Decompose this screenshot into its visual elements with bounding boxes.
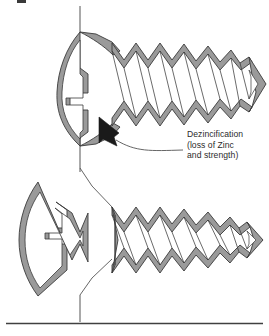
fractured-screw-top-thread-zinc-band — [112, 207, 250, 235]
callout-line-3: and strength) — [187, 150, 269, 161]
callout-text-block: Dezincification (loss of Zinc and streng… — [187, 129, 269, 161]
callout-line-1: Dezincification — [187, 129, 269, 140]
callout-leader-line — [116, 140, 183, 151]
callout-arrowhead-icon — [99, 117, 119, 146]
callout-line-2: (loss of Zinc — [187, 140, 269, 151]
intact-screw-top-thread-zinc-band — [112, 43, 252, 70]
dezincification-diagram-svg — [0, 0, 269, 336]
intact-screw-bottom-thread-zinc-band — [112, 99, 252, 126]
top-edge-crop-artifact — [17, 0, 26, 3]
fractured-screw-head-core — [25, 192, 83, 288]
figure-root: Dezincification (loss of Zinc and streng… — [0, 0, 269, 336]
specimen-fractured-screw — [19, 182, 263, 296]
fractured-screw-bottom-thread-zinc-band — [112, 245, 250, 273]
